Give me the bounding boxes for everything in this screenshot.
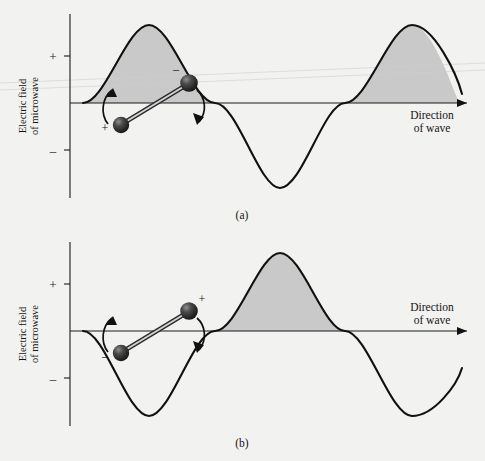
panel-b-dipole-positive-sphere <box>180 302 198 320</box>
panel-b-rotation-arrow-left <box>103 316 117 352</box>
panel-a-caption: (a) <box>236 209 249 222</box>
panel-b-rotation-arrow-right <box>193 318 204 353</box>
panel-b-dipole-rod-highlight <box>122 312 188 352</box>
panel-b-positive-tick-label: + <box>49 277 56 292</box>
panel-a: + – Electric field of microwave Directio… <box>0 14 485 222</box>
panel-b-y-axis-label-line2: of microwave <box>29 305 40 363</box>
panel-b-x-axis-arrowhead <box>457 327 467 335</box>
panel-a-y-axis-label-line2: of microwave <box>29 77 40 135</box>
panel-a-y-axis-label-line1: Electric field <box>17 78 28 133</box>
panel-b-dipole: – + <box>101 292 206 363</box>
panel-b-dipole-negative-sphere <box>113 345 129 361</box>
panel-b-negative-tick-label: – <box>49 371 57 386</box>
panel-b-y-axis-label: Electric field of microwave <box>17 305 40 363</box>
panel-a-dipole-positive-sphere <box>113 117 129 133</box>
panel-b-dipole-positive-sign: + <box>199 292 206 306</box>
panel-b-y-axis-label-line1: Electric field <box>17 306 28 361</box>
panel-b: + – Electric field of microwave Directio… <box>17 242 467 450</box>
panel-a-negative-tick-label: – <box>49 143 57 158</box>
panel-a-y-axis-label: Electric field of microwave <box>17 77 40 135</box>
panel-a-wave-direction-label: Direction of wave <box>410 109 454 134</box>
panel-a-positive-tick-label: + <box>49 49 56 64</box>
panel-b-wave-direction-line2: of wave <box>414 314 451 326</box>
microwave-dipole-figure: + – Electric field of microwave Directio… <box>0 0 485 461</box>
panel-a-x-axis-arrowhead <box>457 99 467 107</box>
panel-a-wave-direction-line1: Direction <box>410 109 454 121</box>
panel-a-dipole-negative-sphere <box>180 74 198 92</box>
panel-b-wave-direction-label: Direction of wave <box>410 301 454 326</box>
panel-a-shaded-crests <box>83 25 460 103</box>
panel-b-shaded-crest <box>215 253 345 331</box>
panel-b-wave-direction-line1: Direction <box>410 301 454 313</box>
panel-a-wave-direction-line2: of wave <box>414 122 451 134</box>
panel-a-dipole-negative-sign: – <box>172 62 180 76</box>
panel-b-caption: (b) <box>235 437 249 450</box>
